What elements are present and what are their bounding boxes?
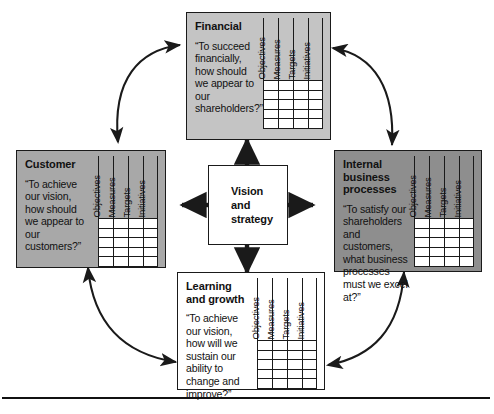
measures-cells <box>429 218 444 267</box>
measures-cell[interactable] <box>99 257 113 267</box>
customer-measures-table: ObjectivesMeasuresTargetsInitiatives <box>98 151 165 267</box>
column-header-label: Initiatives <box>452 180 462 217</box>
measures-cell[interactable] <box>129 219 143 229</box>
measures-cells <box>263 80 278 129</box>
column-header-label: Objectives <box>408 175 418 217</box>
vision-and-strategy-text: Vision and strategy <box>209 184 273 226</box>
measures-cell[interactable] <box>309 100 322 110</box>
measures-cell[interactable] <box>460 219 473 229</box>
measures-cell[interactable] <box>144 248 157 258</box>
internal-title: Internal business processes <box>343 158 408 196</box>
measures-cell[interactable] <box>264 91 278 101</box>
measures-cell[interactable] <box>309 110 322 120</box>
learning-text: Learning and growth “To achieve our visi… <box>178 273 257 389</box>
measures-cell[interactable] <box>114 248 128 258</box>
measures-cell[interactable] <box>445 219 459 229</box>
measures-cell[interactable] <box>445 257 459 267</box>
measures-cell[interactable] <box>415 229 429 239</box>
measures-cells <box>113 218 128 267</box>
measures-cell[interactable] <box>303 360 316 370</box>
measures-cell[interactable] <box>258 379 272 389</box>
measures-cell[interactable] <box>273 370 287 380</box>
measures-cell[interactable] <box>309 81 322 91</box>
measures-cell[interactable] <box>273 351 287 361</box>
measures-cell[interactable] <box>264 81 278 91</box>
measures-cell[interactable] <box>114 257 128 267</box>
measures-cell[interactable] <box>430 238 444 248</box>
measures-cell[interactable] <box>430 219 444 229</box>
measures-cell[interactable] <box>430 257 444 267</box>
measures-cell[interactable] <box>279 119 293 129</box>
measures-cell[interactable] <box>258 370 272 380</box>
measures-cell[interactable] <box>288 360 302 370</box>
measures-cell[interactable] <box>445 229 459 239</box>
measures-cell[interactable] <box>258 360 272 370</box>
measures-cell[interactable] <box>114 238 128 248</box>
measures-cell[interactable] <box>309 91 322 101</box>
measures-cell[interactable] <box>303 370 316 380</box>
measures-cell[interactable] <box>445 248 459 258</box>
measures-cell[interactable] <box>264 119 278 129</box>
measures-cell[interactable] <box>144 219 157 229</box>
measures-cell[interactable] <box>264 100 278 110</box>
measures-cell[interactable] <box>279 100 293 110</box>
measures-cell[interactable] <box>99 248 113 258</box>
measures-cell[interactable] <box>294 91 308 101</box>
measures-cell[interactable] <box>460 248 473 258</box>
measures-cell[interactable] <box>460 257 473 267</box>
measures-cell[interactable] <box>415 257 429 267</box>
measures-cell[interactable] <box>460 238 473 248</box>
measures-cell[interactable] <box>288 370 302 380</box>
measures-cell[interactable] <box>144 238 157 248</box>
measures-cell[interactable] <box>288 379 302 389</box>
measures-cell[interactable] <box>279 91 293 101</box>
measures-cell[interactable] <box>294 110 308 120</box>
measures-cell[interactable] <box>415 238 429 248</box>
measures-cells <box>414 218 429 267</box>
measures-cell[interactable] <box>460 229 473 239</box>
measures-cell[interactable] <box>99 229 113 239</box>
customer-text: Customer “To achieve our vision, how sho… <box>17 151 98 267</box>
measures-cell[interactable] <box>258 351 272 361</box>
measures-cell[interactable] <box>114 229 128 239</box>
measures-cell[interactable] <box>294 81 308 91</box>
measures-column-initiatives: Initiatives <box>302 278 317 389</box>
measures-cell[interactable] <box>303 351 316 361</box>
measures-cell[interactable] <box>415 248 429 258</box>
arrow-customer-learning <box>88 268 176 362</box>
measures-cell[interactable] <box>258 341 272 351</box>
measures-cell[interactable] <box>288 341 302 351</box>
measures-cell[interactable] <box>288 351 302 361</box>
measures-cell[interactable] <box>303 341 316 351</box>
measures-cell[interactable] <box>273 360 287 370</box>
measures-cell[interactable] <box>445 238 459 248</box>
measures-cell[interactable] <box>129 257 143 267</box>
measures-cell[interactable] <box>264 110 278 120</box>
measures-cell[interactable] <box>129 238 143 248</box>
measures-cell[interactable] <box>430 248 444 258</box>
measures-cell[interactable] <box>99 238 113 248</box>
measures-column-initiatives: Initiatives <box>459 156 474 267</box>
measures-cell[interactable] <box>129 229 143 239</box>
balanced-scorecard-diagram: Financial “To succeed financially, how s… <box>0 0 494 414</box>
quadrant-internal-business-processes: Internal business processes “To satisfy … <box>334 150 482 272</box>
measures-cell[interactable] <box>279 81 293 91</box>
measures-cell[interactable] <box>294 100 308 110</box>
measures-cell[interactable] <box>273 341 287 351</box>
measures-cell[interactable] <box>144 229 157 239</box>
measures-cell[interactable] <box>144 257 157 267</box>
measures-cell[interactable] <box>114 219 128 229</box>
internal-measures-table: ObjectivesMeasuresTargetsInitiatives <box>414 151 481 271</box>
measures-cell[interactable] <box>129 248 143 258</box>
measures-cell[interactable] <box>279 110 293 120</box>
measures-column-initiatives: Initiatives <box>143 156 158 267</box>
measures-cell[interactable] <box>430 229 444 239</box>
measures-cell[interactable] <box>303 379 316 389</box>
measures-cell[interactable] <box>309 119 322 129</box>
measures-cell[interactable] <box>273 379 287 389</box>
measures-cell[interactable] <box>415 219 429 229</box>
measures-cell[interactable] <box>99 219 113 229</box>
quadrant-learning-and-growth: Learning and growth “To achieve our visi… <box>177 272 325 390</box>
measures-cell[interactable] <box>294 119 308 129</box>
column-header-label: Targets <box>287 49 297 79</box>
